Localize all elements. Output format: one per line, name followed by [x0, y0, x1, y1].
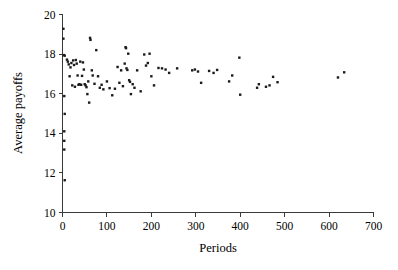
- scatter-chart-figure: 101214161820 0100200300400500600700 Peri…: [0, 0, 398, 270]
- data-point: [76, 74, 78, 76]
- data-point: [272, 76, 274, 78]
- y-axis-title: Average payoffs: [11, 72, 25, 154]
- x-tick-label: 700: [365, 220, 383, 232]
- y-axis-ticks: [59, 15, 63, 213]
- y-axis-tick-labels: 101214161820: [44, 9, 56, 219]
- data-point: [114, 88, 116, 90]
- data-point: [143, 53, 145, 55]
- data-point: [62, 37, 64, 39]
- data-point: [130, 93, 132, 95]
- data-point: [64, 113, 66, 115]
- data-point: [81, 75, 83, 77]
- data-point: [126, 69, 128, 71]
- data-point: [337, 76, 339, 78]
- data-point: [76, 62, 78, 64]
- data-point: [85, 86, 87, 88]
- data-point: [208, 70, 210, 72]
- data-point: [157, 67, 159, 69]
- x-tick-label: 0: [60, 220, 66, 232]
- data-point: [63, 140, 65, 142]
- data-point: [99, 87, 101, 89]
- data-point: [212, 72, 214, 74]
- data-point: [89, 39, 91, 41]
- y-tick-label: 20: [44, 9, 56, 21]
- data-point: [73, 64, 75, 66]
- data-point: [75, 59, 77, 61]
- data-point: [111, 94, 113, 96]
- data-point: [64, 54, 66, 56]
- data-point: [74, 86, 76, 88]
- y-tick-label: 12: [44, 167, 56, 179]
- data-point: [258, 83, 260, 85]
- data-point: [139, 90, 141, 92]
- data-point: [82, 61, 84, 63]
- data-point: [265, 86, 267, 88]
- x-tick-label: 500: [276, 220, 294, 232]
- x-axis-title: Periods: [199, 241, 237, 255]
- data-point: [106, 80, 108, 82]
- data-point: [120, 69, 122, 71]
- data-point: [64, 179, 66, 181]
- data-point: [238, 56, 240, 58]
- data-points-group: [62, 28, 345, 182]
- data-point: [100, 84, 102, 86]
- x-axis-ticks: [63, 213, 374, 217]
- data-point: [80, 84, 82, 86]
- data-point: [86, 93, 88, 95]
- data-point: [97, 75, 99, 77]
- data-point: [168, 72, 170, 74]
- data-point: [153, 84, 155, 86]
- y-tick-label: 18: [44, 48, 56, 60]
- data-point: [268, 84, 270, 86]
- data-point: [118, 82, 120, 84]
- data-point: [79, 60, 81, 62]
- data-point: [343, 71, 345, 73]
- data-point: [67, 60, 69, 62]
- data-point: [63, 130, 65, 132]
- data-point: [200, 82, 202, 84]
- data-point: [191, 69, 193, 71]
- data-point: [127, 53, 129, 55]
- data-point: [83, 68, 85, 70]
- data-point: [68, 75, 70, 77]
- x-tick-label: 300: [187, 220, 205, 232]
- x-tick-label: 600: [320, 220, 338, 232]
- data-point: [145, 64, 147, 66]
- data-point: [92, 74, 94, 76]
- data-point: [122, 85, 124, 87]
- data-point: [69, 66, 71, 68]
- data-point: [102, 88, 104, 90]
- x-tick-label: 100: [98, 220, 116, 232]
- data-point: [91, 69, 93, 71]
- y-tick-label: 10: [44, 207, 56, 219]
- data-point: [164, 68, 166, 70]
- data-point: [62, 28, 64, 30]
- data-point: [88, 101, 90, 103]
- data-point: [63, 148, 65, 150]
- data-point: [176, 67, 178, 69]
- data-point: [150, 75, 152, 77]
- data-point: [147, 62, 149, 64]
- data-point: [161, 67, 163, 69]
- data-point: [231, 74, 233, 76]
- data-point: [132, 83, 134, 85]
- plot-area: 101214161820 0100200300400500600700: [44, 9, 382, 232]
- data-point: [68, 63, 70, 65]
- data-point: [194, 68, 196, 70]
- x-tick-label: 200: [143, 220, 161, 232]
- data-point: [136, 69, 138, 71]
- data-point: [228, 80, 230, 82]
- data-point: [129, 81, 131, 83]
- data-point: [256, 87, 258, 89]
- data-point: [70, 62, 72, 64]
- data-point: [276, 81, 278, 83]
- data-point: [63, 95, 65, 97]
- data-point: [125, 47, 127, 49]
- data-point: [71, 84, 73, 86]
- data-point: [239, 93, 241, 95]
- chart-canvas: 101214161820 0100200300400500600700 Peri…: [0, 0, 398, 270]
- x-axis-tick-labels: 0100200300400500600700: [60, 220, 383, 232]
- data-point: [87, 80, 89, 82]
- data-point: [216, 69, 218, 71]
- data-point: [133, 87, 135, 89]
